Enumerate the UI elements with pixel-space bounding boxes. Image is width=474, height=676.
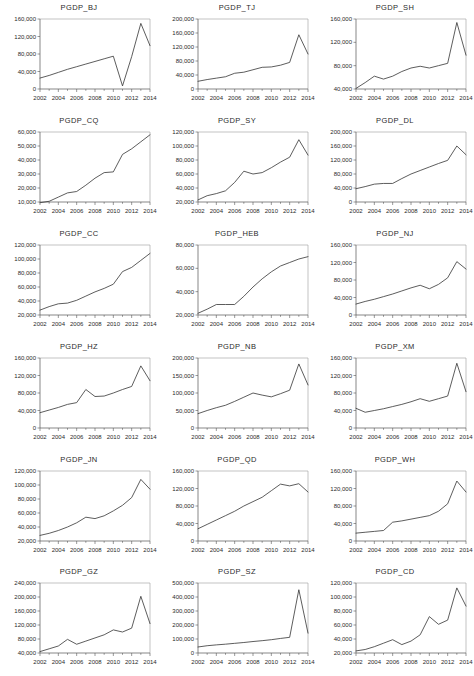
y-axis-tick-label: 40,000 — [18, 650, 37, 656]
x-axis-tick-label: 2002 — [191, 95, 205, 101]
y-axis-tick-label: 150,000 — [172, 373, 194, 379]
y-axis-tick-label: 160,000 — [172, 30, 194, 36]
x-axis-tick-label: 2004 — [52, 208, 66, 214]
chart-svg: 040,00080,000120,000160,0002002200420062… — [0, 13, 158, 109]
data-series-line — [40, 23, 150, 86]
plot-area: 050,000100,000150,000200,000200220042006… — [158, 352, 316, 448]
x-axis-tick-label: 2010 — [107, 95, 121, 101]
x-axis-tick-label: 2012 — [125, 434, 139, 440]
y-axis-tick-label: 120,000 — [330, 486, 352, 492]
x-axis-tick-label: 2008 — [88, 208, 102, 214]
chart-title: PGDP_SH — [316, 3, 474, 12]
x-axis-tick-label: 2010 — [423, 659, 437, 665]
y-axis-tick-label: 80,000 — [334, 171, 353, 177]
x-axis-tick-label: 2006 — [386, 434, 400, 440]
chart-title: PGDP_NJ — [316, 229, 474, 238]
x-axis-tick-label: 2002 — [191, 434, 205, 440]
y-axis-tick-label: 160,000 — [14, 608, 36, 614]
data-series-line — [198, 364, 308, 414]
y-axis-tick-label: 100,000 — [330, 594, 352, 600]
plot-area: 20,00040,00060,00080,000100,000120,00020… — [0, 239, 158, 335]
x-axis-tick-label: 2012 — [125, 208, 139, 214]
x-axis-tick-label: 2014 — [459, 547, 473, 553]
y-axis-tick-label: 0 — [191, 86, 195, 92]
x-axis-tick-label: 2002 — [33, 95, 47, 101]
y-axis-tick-label: 100,000 — [14, 256, 36, 262]
x-axis-tick-label: 2008 — [88, 547, 102, 553]
x-axis-tick-label: 2012 — [283, 321, 297, 327]
y-axis-tick-label: 500,000 — [172, 580, 194, 586]
chart-panel-pgdp-nb: PGDP_NB050,000100,000150,000200,00020022… — [158, 339, 316, 452]
x-axis-tick-label: 2004 — [368, 547, 382, 553]
y-axis-tick-label: 120,000 — [330, 157, 352, 163]
chart-panel-pgdp-sh: PGDP_SH40,00080,000120,000160,0002002200… — [316, 0, 474, 113]
y-axis-tick-label: 40,000 — [334, 185, 353, 191]
chart-svg: 20,00040,00060,00080,000100,000120,00020… — [316, 577, 474, 673]
y-axis-tick-label: 100,000 — [14, 482, 36, 488]
data-series-line — [356, 146, 466, 189]
plot-area: 040,00080,000120,000160,0002002200420062… — [316, 465, 474, 561]
chart-svg: 20,00040,00060,00080,0002002200420062008… — [158, 239, 316, 335]
chart-panel-pgdp-hz: PGDP_HZ040,00080,000120,000160,000200220… — [0, 339, 158, 452]
y-axis-tick-label: 20,000 — [334, 650, 353, 656]
data-series-line — [356, 363, 466, 412]
y-axis-tick-label: 80,000 — [334, 63, 353, 69]
x-axis-tick-label: 2004 — [210, 659, 224, 665]
x-axis-tick-label: 2010 — [423, 434, 437, 440]
chart-panel-pgdp-xm: PGDP_XM040,00080,000120,000160,000200220… — [316, 339, 474, 452]
x-axis-tick-label: 2004 — [210, 434, 224, 440]
x-axis-tick-label: 2010 — [265, 547, 279, 553]
y-axis-tick-label: 40,000 — [18, 298, 37, 304]
chart-title: PGDP_CC — [0, 229, 158, 238]
x-axis-tick-label: 2004 — [368, 659, 382, 665]
y-axis-tick-label: 0 — [349, 199, 353, 205]
chart-svg: 050,000100,000150,000200,000200220042006… — [158, 352, 316, 448]
x-axis-tick-label: 2014 — [459, 434, 473, 440]
y-axis-tick-label: 120,000 — [14, 373, 36, 379]
chart-panel-pgdp-cq: PGDP_CQ10,00020,00030,00040,00050,00060,… — [0, 113, 158, 226]
x-axis-tick-label: 2002 — [349, 95, 363, 101]
x-axis-tick-label: 2004 — [210, 208, 224, 214]
x-axis-tick-label: 2008 — [88, 321, 102, 327]
x-axis-tick-label: 2004 — [52, 95, 66, 101]
x-axis-tick-label: 2004 — [52, 321, 66, 327]
y-axis-tick-label: 40,000 — [334, 636, 353, 642]
x-axis-tick-label: 2010 — [265, 659, 279, 665]
x-axis-tick-label: 2008 — [404, 321, 418, 327]
x-axis-tick-label: 2008 — [246, 659, 260, 665]
chart-panel-pgdp-bj: PGDP_BJ040,00080,000120,000160,000200220… — [0, 0, 158, 113]
y-axis-tick-label: 80,000 — [18, 390, 37, 396]
plot-area: 20,00040,00060,00080,0002002200420062008… — [158, 239, 316, 335]
plot-area: 10,00020,00030,00040,00050,00060,0002002… — [0, 126, 158, 222]
x-axis-tick-label: 2010 — [265, 208, 279, 214]
y-axis-tick-label: 40,000 — [176, 185, 195, 191]
x-axis-tick-label: 2002 — [33, 659, 47, 665]
chart-title: PGDP_DL — [316, 116, 474, 125]
y-axis-tick-label: 0 — [349, 538, 353, 544]
x-axis-tick-label: 2002 — [191, 659, 205, 665]
y-axis-tick-label: 200,000 — [330, 129, 352, 135]
chart-panel-pgdp-jn: PGDP_JN20,00040,00060,00080,000100,00012… — [0, 452, 158, 564]
x-axis-tick-label: 2006 — [228, 208, 242, 214]
x-axis-tick-label: 2012 — [283, 434, 297, 440]
x-axis-tick-label: 2008 — [246, 547, 260, 553]
chart-svg: 20,00040,00060,00080,000100,000120,00020… — [158, 126, 316, 222]
chart-svg: 040,00080,000120,000160,0002002200420062… — [316, 239, 474, 335]
chart-title: PGDP_QD — [158, 455, 316, 464]
x-axis-tick-label: 2014 — [143, 95, 157, 101]
chart-title: PGDP_SZ — [158, 567, 316, 576]
chart-title: PGDP_BJ — [0, 3, 158, 12]
chart-svg: 20,00040,00060,00080,000100,000120,00020… — [0, 239, 158, 335]
x-axis-tick-label: 2006 — [386, 547, 400, 553]
y-axis-tick-label: 20,000 — [18, 312, 37, 318]
y-axis-tick-label: 60,000 — [334, 622, 353, 628]
data-series-line — [198, 140, 308, 200]
y-axis-tick-label: 0 — [191, 650, 195, 656]
x-axis-tick-label: 2014 — [459, 659, 473, 665]
x-axis-tick-label: 2004 — [368, 321, 382, 327]
data-series-line — [198, 35, 308, 82]
data-series-line — [198, 484, 308, 529]
x-axis-tick-label: 2008 — [246, 208, 260, 214]
y-axis-tick-label: 120,000 — [172, 44, 194, 50]
y-axis-tick-label: 0 — [349, 312, 353, 318]
